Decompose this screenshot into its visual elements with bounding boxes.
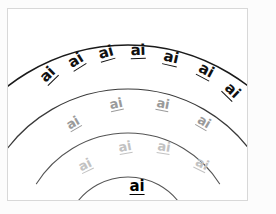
worksheet-card: aiaiaiaiaiaiaiaiaiaiaiaiaiaiaiai: [7, 8, 248, 201]
arc-3: [36, 133, 219, 184]
arc-4-inner: [76, 177, 180, 201]
arc-2: [8, 89, 248, 165]
rainbow-word-stage: aiaiaiaiaiaiaiaiaiaiaiaiaiaiaiai: [8, 9, 247, 200]
arc-layer: [8, 9, 248, 201]
page-root: aiaiaiaiaiaiaiaiaiaiaiaiaiaiaiai: [0, 0, 276, 214]
